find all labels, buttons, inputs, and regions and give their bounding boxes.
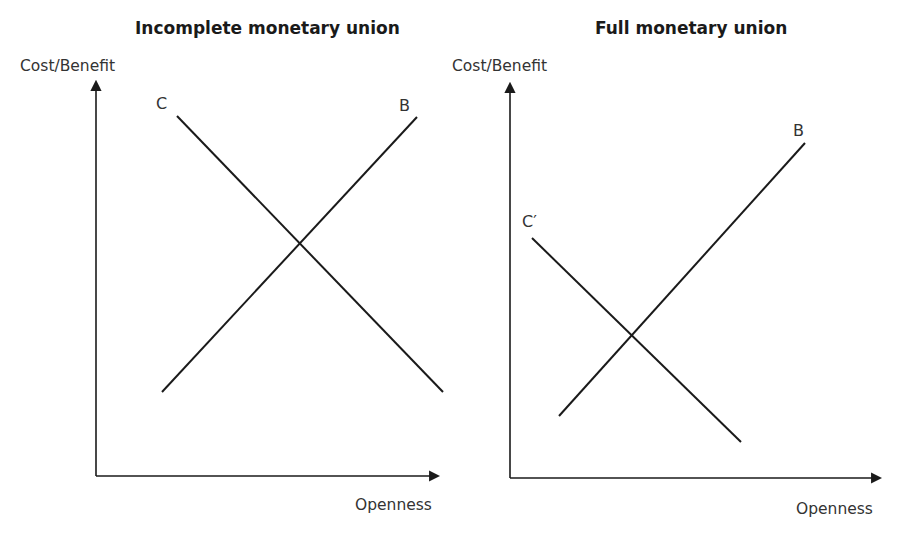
- diagram-canvas: [0, 0, 904, 545]
- right-chart: [510, 84, 880, 478]
- left-chart: [96, 82, 443, 476]
- left-benefit-curve: [162, 117, 417, 392]
- left-cost-curve: [177, 116, 443, 392]
- right-benefit-curve: [559, 143, 805, 416]
